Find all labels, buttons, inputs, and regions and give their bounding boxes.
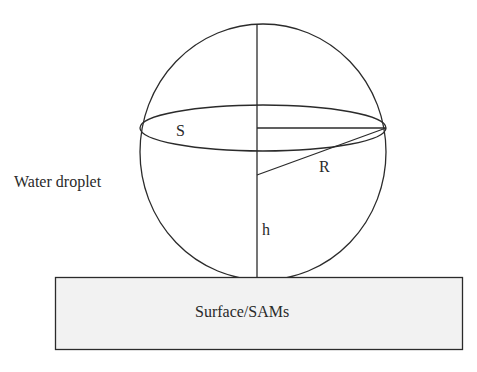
height-label-h: h <box>262 222 270 238</box>
area-label-s: S <box>176 123 185 139</box>
droplet-outline <box>140 24 386 280</box>
droplet-label: Water droplet <box>14 174 101 190</box>
surface-label: Surface/SAMs <box>195 304 289 320</box>
radius-label-r: R <box>319 159 330 175</box>
